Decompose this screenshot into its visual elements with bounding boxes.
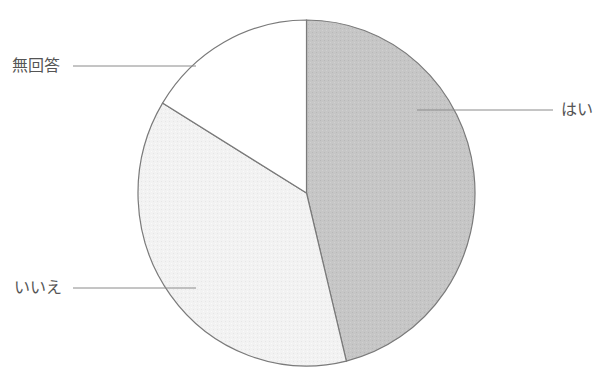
pie-chart	[0, 0, 611, 380]
label-no: いいえ	[14, 279, 62, 297]
pie-slices	[138, 20, 475, 366]
label-yes: はい	[561, 101, 593, 119]
label-no-answer: 無回答	[12, 57, 60, 75]
